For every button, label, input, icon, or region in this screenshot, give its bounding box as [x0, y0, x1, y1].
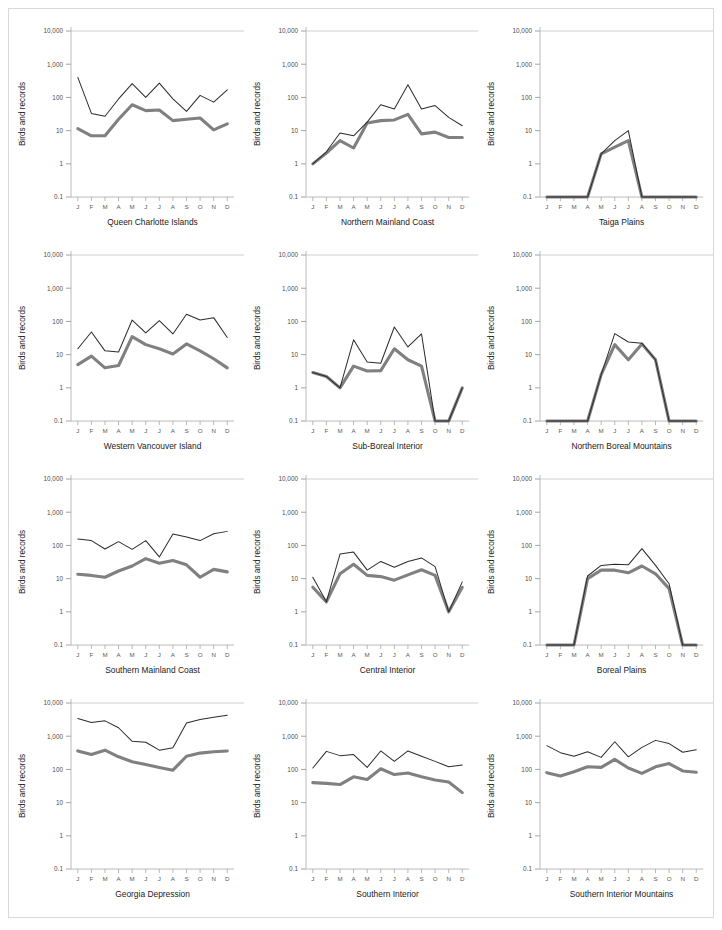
chart-panel: 10,0001,0001001010.1Birds and recordsJFM…: [9, 233, 244, 457]
chart-panel: 10,0001,0001001010.1Birds and recordsJFM…: [244, 9, 479, 233]
series-line-records: [547, 131, 696, 197]
y-axis-title: Birds and records: [18, 82, 27, 146]
x-tick-label: F: [559, 203, 563, 210]
y-tick-label: 1: [59, 160, 63, 167]
series-line-birds: [78, 105, 227, 136]
x-tick-label: M: [337, 203, 342, 210]
series-line-records: [312, 327, 461, 421]
x-tick-label: M: [130, 427, 135, 434]
panel-title: Southern Interior: [356, 889, 419, 899]
x-tick-label: D: [460, 875, 465, 882]
y-tick-label: 1: [529, 608, 533, 615]
series-line-birds: [547, 141, 696, 197]
x-tick-label: A: [116, 427, 121, 434]
panel-title: Southern Mainland Coast: [105, 665, 200, 675]
x-tick-label: D: [225, 427, 230, 434]
panel-plot: 10,0001,0001001010.1Birds and recordsJFM…: [478, 457, 713, 681]
y-tick-label: 10,000: [43, 699, 63, 706]
x-tick-label: J: [379, 203, 382, 210]
y-axis-title: Birds and records: [253, 82, 262, 146]
series-line-birds: [547, 760, 696, 777]
y-tick-label: 10: [525, 799, 533, 806]
panel-title: Taiga Plains: [599, 217, 644, 227]
x-tick-label: F: [90, 427, 94, 434]
y-tick-label: 0.1: [523, 866, 532, 873]
x-tick-label: J: [392, 427, 395, 434]
x-tick-label: S: [184, 875, 188, 882]
y-tick-label: 1: [59, 384, 63, 391]
x-tick-label: M: [364, 427, 369, 434]
x-tick-label: D: [460, 651, 465, 658]
x-tick-label: J: [614, 651, 617, 658]
y-tick-label: 10,000: [43, 251, 63, 258]
x-tick-label: M: [599, 875, 604, 882]
y-tick-label: 100: [522, 318, 533, 325]
x-tick-label: J: [76, 875, 79, 882]
x-tick-label: M: [102, 427, 107, 434]
y-axis-title: Birds and records: [18, 754, 27, 818]
x-tick-label: M: [572, 203, 577, 210]
x-tick-label: N: [681, 875, 685, 882]
x-tick-label: M: [130, 651, 135, 658]
x-tick-label: A: [116, 875, 121, 882]
x-tick-label: J: [546, 203, 549, 210]
x-tick-label: O: [432, 875, 437, 882]
x-tick-label: M: [102, 875, 107, 882]
x-tick-label: A: [406, 203, 411, 210]
x-tick-label: A: [351, 203, 356, 210]
y-tick-label: 1: [529, 384, 533, 391]
chart-panel: 10,0001,0001001010.1Birds and recordsJFM…: [244, 681, 479, 905]
x-tick-label: J: [627, 875, 630, 882]
y-tick-label: 100: [52, 766, 63, 773]
y-tick-label: 0.1: [523, 193, 532, 200]
y-tick-label: 1,000: [516, 285, 532, 292]
x-tick-label: O: [432, 203, 437, 210]
x-tick-label: F: [324, 875, 328, 882]
y-tick-label: 10: [291, 799, 299, 806]
y-tick-label: 1: [294, 832, 298, 839]
y-tick-label: 1,000: [282, 509, 298, 516]
series-line-birds: [78, 750, 227, 770]
y-tick-label: 0.1: [54, 417, 63, 424]
y-tick-label: 10: [56, 351, 64, 358]
x-tick-label: O: [198, 203, 203, 210]
x-tick-label: M: [337, 651, 342, 658]
panel-title: Georgia Depression: [115, 889, 190, 899]
x-tick-label: O: [198, 875, 203, 882]
y-tick-label: 1: [529, 832, 533, 839]
x-tick-label: J: [379, 651, 382, 658]
x-tick-label: S: [184, 203, 188, 210]
x-tick-label: S: [419, 427, 423, 434]
series-line-records: [78, 531, 227, 557]
x-tick-label: F: [90, 651, 94, 658]
x-tick-label: F: [324, 651, 328, 658]
x-tick-label: J: [311, 651, 314, 658]
x-tick-label: N: [446, 651, 450, 658]
x-tick-label: M: [130, 875, 135, 882]
x-tick-label: D: [460, 203, 465, 210]
y-tick-label: 10,000: [278, 27, 298, 34]
chart-panel: 10,0001,0001001010.1Birds and recordsJFM…: [478, 681, 713, 905]
y-tick-label: 10,000: [513, 27, 533, 34]
x-tick-label: D: [694, 203, 699, 210]
y-tick-label: 100: [287, 542, 298, 549]
panel-plot: 10,0001,0001001010.1Birds and recordsJFM…: [244, 681, 479, 905]
x-tick-label: M: [572, 651, 577, 658]
panel-plot: 10,0001,0001001010.1Birds and recordsJFM…: [9, 9, 244, 233]
y-tick-label: 100: [52, 94, 63, 101]
x-tick-label: S: [419, 203, 423, 210]
y-tick-label: 10,000: [43, 27, 63, 34]
x-tick-label: S: [419, 875, 423, 882]
chart-panel: 10,0001,0001001010.1Birds and recordsJFM…: [478, 457, 713, 681]
y-tick-label: 100: [522, 94, 533, 101]
y-tick-label: 100: [52, 318, 63, 325]
y-axis-title: Birds and records: [253, 530, 262, 594]
x-tick-label: N: [211, 875, 215, 882]
x-tick-label: J: [311, 427, 314, 434]
panel-plot: 10,0001,0001001010.1Birds and recordsJFM…: [244, 457, 479, 681]
x-tick-label: J: [144, 203, 147, 210]
y-tick-label: 1,000: [516, 61, 532, 68]
x-tick-label: A: [406, 875, 411, 882]
x-tick-label: O: [667, 651, 672, 658]
y-tick-label: 10: [56, 799, 64, 806]
